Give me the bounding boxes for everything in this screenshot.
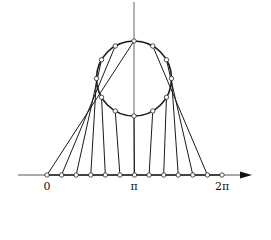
axis-point-marker bbox=[59, 173, 63, 177]
construction-segment bbox=[164, 97, 167, 175]
axis-point-marker bbox=[176, 173, 180, 177]
axis-point-marker bbox=[205, 173, 209, 177]
axis-point-marker bbox=[161, 173, 165, 177]
axis-point-marker bbox=[132, 173, 136, 177]
axis-point-marker bbox=[191, 173, 195, 177]
circle-point-marker bbox=[132, 114, 136, 118]
construction-segment bbox=[134, 116, 135, 175]
construction-segments bbox=[47, 41, 207, 175]
construction-segment bbox=[115, 111, 120, 175]
label-two-pi: 2π bbox=[215, 180, 229, 193]
axis-point-marker bbox=[45, 173, 49, 177]
axis-point-marker bbox=[118, 173, 122, 177]
construction-segment bbox=[149, 111, 153, 175]
circle-point-marker bbox=[99, 95, 103, 99]
construction-segment bbox=[153, 46, 208, 175]
circle-point-marker bbox=[151, 44, 155, 48]
axis-point-marker bbox=[89, 173, 93, 177]
label-pi: π bbox=[130, 180, 137, 193]
circle-point-marker bbox=[132, 39, 136, 43]
axis-point-marker bbox=[103, 173, 107, 177]
circle-point-marker bbox=[151, 109, 155, 113]
axis-point-marker bbox=[147, 173, 151, 177]
construction-segment bbox=[62, 46, 116, 175]
construction-segment bbox=[102, 97, 106, 175]
circle-point-marker bbox=[113, 44, 117, 48]
circle-point-marker bbox=[113, 109, 117, 113]
axis-point-marker bbox=[220, 173, 224, 177]
circle-point-marker bbox=[169, 76, 173, 80]
circle-point-marker bbox=[164, 58, 168, 62]
axis-point-marker bbox=[74, 173, 78, 177]
circle-point-marker bbox=[94, 76, 98, 80]
circle-point-marker bbox=[164, 95, 168, 99]
construction-segment bbox=[91, 79, 97, 176]
circle-point-marker bbox=[99, 58, 103, 62]
axis-arrow-icon bbox=[240, 172, 252, 179]
label-zero: 0 bbox=[44, 180, 51, 193]
